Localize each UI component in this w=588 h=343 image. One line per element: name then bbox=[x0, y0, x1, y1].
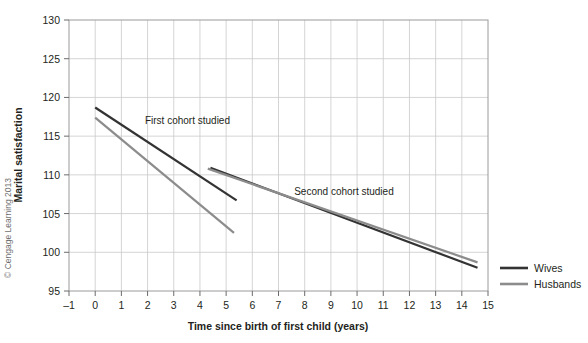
x-tick-label: 2 bbox=[145, 299, 151, 311]
x-tick-label: 0 bbox=[92, 299, 98, 311]
legend-label-husbands[interactable]: Husbands bbox=[534, 278, 581, 290]
figure-container: 95100105110115120125130 –101234567891011… bbox=[0, 0, 588, 343]
chart-annotation: Second cohort studied bbox=[294, 186, 394, 197]
legend-label-wives[interactable]: Wives bbox=[534, 262, 563, 274]
x-tick-label: –1 bbox=[63, 299, 75, 311]
x-tick-label: 7 bbox=[276, 299, 282, 311]
x-tick-label: 1 bbox=[118, 299, 124, 311]
y-tick-label: 125 bbox=[42, 53, 60, 65]
x-tick-label: 14 bbox=[456, 299, 468, 311]
x-tick-label: 9 bbox=[328, 299, 334, 311]
y-tick-label: 105 bbox=[42, 208, 60, 220]
x-tick-label: 4 bbox=[197, 299, 203, 311]
x-tick-label: 10 bbox=[351, 299, 363, 311]
x-tick-label: 8 bbox=[302, 299, 308, 311]
x-tick-label: 6 bbox=[249, 299, 255, 311]
y-tick-label: 100 bbox=[42, 246, 60, 258]
x-tick-label: 5 bbox=[223, 299, 229, 311]
x-axis-title: Time since birth of first child (years) bbox=[188, 320, 369, 332]
y-tick-label: 95 bbox=[48, 285, 60, 297]
x-tick-label: 3 bbox=[171, 299, 177, 311]
x-tick-label: 11 bbox=[378, 299, 389, 311]
y-tick-label: 120 bbox=[42, 91, 60, 103]
x-tick-label: 12 bbox=[404, 299, 416, 311]
copyright-credit: © Cengage Learning 2013 bbox=[3, 178, 13, 278]
y-tick-label: 115 bbox=[43, 130, 60, 142]
y-tick-label: 110 bbox=[43, 169, 60, 181]
y-axis-title: Marital satisfaction bbox=[12, 107, 24, 202]
chart-annotation: First cohort studied bbox=[145, 115, 230, 126]
y-tick-label: 130 bbox=[42, 14, 60, 26]
chart-background bbox=[0, 0, 588, 343]
x-tick-label: 13 bbox=[430, 299, 442, 311]
chart-svg: 95100105110115120125130 –101234567891011… bbox=[0, 0, 588, 343]
x-tick-label: 15 bbox=[482, 299, 494, 311]
